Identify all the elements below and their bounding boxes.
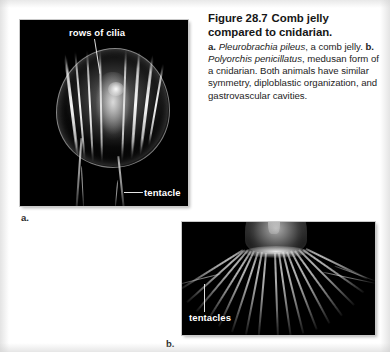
figure-number: Figure 28.7 bbox=[208, 12, 268, 24]
leader-line-tentacle bbox=[124, 192, 143, 193]
medusa-tentacle bbox=[182, 249, 243, 290]
photo-medusa-jellyfish: tentacles bbox=[182, 222, 375, 335]
caption-part-a-marker: a. bbox=[208, 41, 216, 52]
panel-letter-a: a. bbox=[21, 212, 29, 223]
medusa-manubrium bbox=[268, 222, 280, 234]
photo-a-content: rows of cilia tentacle bbox=[20, 20, 188, 206]
panel-letter-b: b. bbox=[166, 338, 174, 349]
comb-jelly-statocyst-highlight bbox=[108, 82, 124, 96]
comb-jelly-tentacle-strand bbox=[115, 180, 119, 206]
medusa-tentacle bbox=[282, 252, 304, 334]
caption-species-a: Pleurobrachia pileus bbox=[219, 41, 306, 52]
comb-jelly-tentacle-strand bbox=[81, 166, 84, 206]
figure-caption-body: a. Pleurobrachia pileus, a comb jelly. b… bbox=[208, 41, 380, 102]
figure-caption: Figure 28.7Comb jelly compared to cnidar… bbox=[208, 12, 380, 102]
caption-text-a: , a comb jelly. bbox=[305, 41, 365, 52]
photo-comb-jelly: rows of cilia tentacle bbox=[20, 20, 188, 206]
label-tentacle: tentacle bbox=[144, 187, 181, 198]
caption-part-b-marker: b. bbox=[365, 41, 374, 52]
leader-line-tentacles bbox=[204, 284, 205, 312]
medusa-tentacle bbox=[274, 253, 278, 335]
photo-b-content: tentacles bbox=[182, 222, 375, 335]
label-tentacles: tentacles bbox=[189, 312, 231, 323]
figure-page: rows of cilia tentacle a. bbox=[0, 0, 390, 352]
caption-species-b: Polyorchis penicillatus bbox=[208, 53, 302, 64]
figure-caption-title: Figure 28.7Comb jelly compared to cnidar… bbox=[208, 12, 380, 39]
medusa-tentacle bbox=[186, 249, 245, 302]
label-rows-of-cilia: rows of cilia bbox=[69, 27, 125, 38]
